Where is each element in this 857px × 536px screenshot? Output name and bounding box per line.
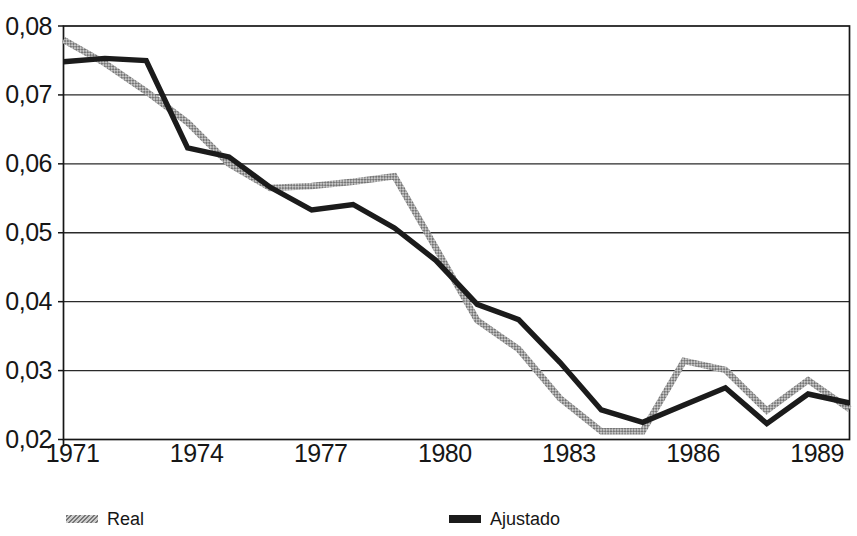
x-tick-label: 1974 bbox=[170, 439, 224, 467]
y-tick-label: 0,03 bbox=[5, 356, 52, 384]
real-series-label: Real bbox=[107, 509, 144, 530]
series-line-ajustado bbox=[64, 58, 850, 423]
line-chart-svg: 0,080,070,060,050,040,030,02 19711974197… bbox=[0, 0, 857, 508]
legend-item-real: Real bbox=[66, 508, 144, 530]
y-tick-label: 0,07 bbox=[5, 80, 52, 108]
ajustado-series-label: Ajustado bbox=[490, 509, 560, 530]
x-tick-label: 1986 bbox=[666, 439, 720, 467]
x-tick-label: 1989 bbox=[790, 439, 844, 467]
y-tick-label: 0,05 bbox=[5, 218, 52, 246]
real-series-swatch bbox=[66, 515, 98, 523]
y-tick-label: 0,04 bbox=[5, 287, 52, 315]
series-lines bbox=[64, 40, 850, 431]
x-tick-label: 1983 bbox=[542, 439, 596, 467]
series-line-real bbox=[64, 40, 850, 431]
x-tick-label: 1977 bbox=[294, 439, 348, 467]
ajustado-series-swatch bbox=[449, 515, 481, 523]
x-tick-label: 1980 bbox=[418, 439, 472, 467]
chart-figure: 0,080,070,060,050,040,030,02 19711974197… bbox=[0, 0, 857, 536]
y-axis-tick-labels: 0,080,070,060,050,040,030,02 bbox=[5, 12, 52, 454]
plot-border bbox=[64, 26, 850, 447]
x-axis-tick-labels: 1971197419771980198319861989 bbox=[46, 439, 844, 467]
legend-item-ajustado: Ajustado bbox=[449, 508, 560, 530]
legend: Real Ajustado bbox=[0, 508, 857, 532]
x-tick-label: 1971 bbox=[46, 439, 100, 467]
y-tick-label: 0,08 bbox=[5, 12, 52, 40]
y-tick-label: 0,06 bbox=[5, 149, 52, 177]
